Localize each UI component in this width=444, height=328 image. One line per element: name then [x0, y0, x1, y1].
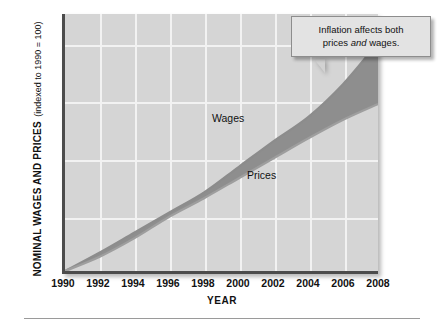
- x-axis-title: YEAR: [0, 295, 444, 306]
- footer-rule: [24, 318, 420, 319]
- series-label-prices: Prices: [247, 169, 276, 181]
- callout-line-1: Inflation affects both: [319, 24, 404, 35]
- callout-tail: [314, 59, 325, 73]
- y-axis-title-sub: (indexed to 1990 = 100): [33, 21, 43, 116]
- callout-line-2-emphasis: and: [351, 37, 367, 48]
- y-axis-title: NOMINAL WAGES AND PRICES (indexed to 199…: [27, 9, 45, 289]
- series-label-wages: Wages: [212, 112, 244, 124]
- x-tick-label-2008: 2008: [356, 277, 400, 289]
- callout-line-2-after: wages.: [367, 37, 400, 48]
- wages-prices-band: [65, 43, 378, 271]
- figure-container: NOMINAL WAGES AND PRICES (indexed to 199…: [0, 0, 444, 328]
- callout-box: Inflation affects both prices and wages.: [291, 16, 431, 57]
- y-axis-title-main: NOMINAL WAGES AND PRICES: [32, 121, 43, 276]
- callout-line-2-before: prices: [323, 37, 351, 48]
- wages-line: [65, 43, 378, 271]
